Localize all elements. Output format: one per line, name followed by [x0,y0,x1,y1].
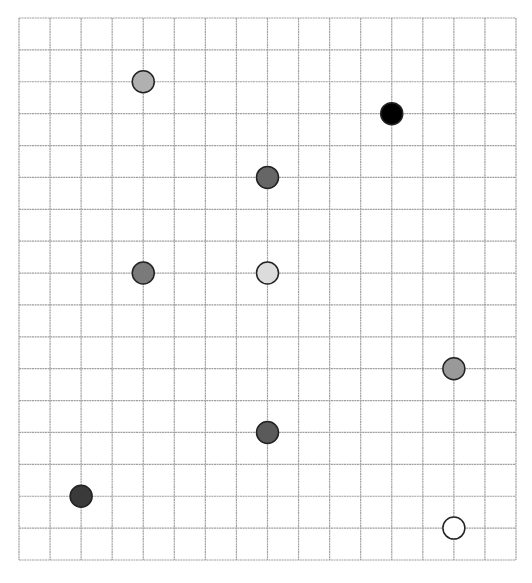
grid-board [0,0,532,583]
circle-marker [443,517,465,539]
circle-marker [443,358,465,380]
grid-lines [19,18,516,560]
circle-marker [257,166,279,188]
circle-marker [132,262,154,284]
circle-marker [70,485,92,507]
circle-marker [381,103,403,125]
circle-marker [257,262,279,284]
circle-marker [132,71,154,93]
circle-marker [257,421,279,443]
